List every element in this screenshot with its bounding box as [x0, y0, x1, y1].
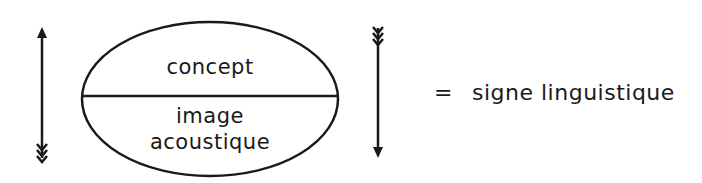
up-arrow-icon	[37, 27, 47, 162]
equals-sign: =	[434, 80, 453, 105]
concept-label: concept	[166, 55, 253, 79]
signe-linguistique-label: signe linguistique	[472, 80, 675, 105]
down-arrow-icon	[373, 27, 383, 158]
image-label: image	[176, 104, 244, 128]
acoustique-label: acoustique	[150, 130, 270, 154]
